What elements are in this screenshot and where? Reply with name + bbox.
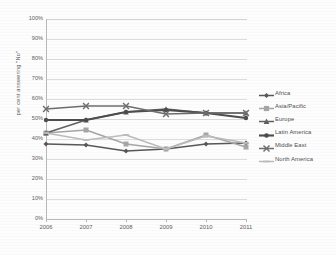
legend-item-latin-america[interactable]: Latin America: [258, 126, 334, 139]
gridline: [47, 59, 247, 60]
y-tick-label: 20%: [0, 176, 43, 182]
legend-marker-square-icon: [258, 100, 275, 111]
legend-label: North America: [275, 156, 313, 162]
legend-marker-circle-icon: [258, 127, 275, 138]
data-point-square: [264, 106, 269, 111]
y-tick-label: 40%: [0, 136, 43, 142]
y-tick-label: 60%: [0, 96, 43, 102]
y-tick-label: 100%: [0, 16, 43, 22]
y-tick-label: 80%: [0, 56, 43, 62]
x-tick-mark: [46, 219, 47, 222]
y-tick-label: 10%: [0, 196, 43, 202]
legend: AfricaAsia/PacificEuropeLatin AmericaMid…: [258, 86, 334, 165]
line-chart: per cent answering "No" 0%10%20%30%40%50…: [0, 0, 336, 255]
gridline: [47, 139, 247, 140]
plot-area: [46, 19, 247, 220]
legend-marker-dash-icon: [258, 153, 275, 164]
y-tick-label: 30%: [0, 156, 43, 162]
legend-label: Africa: [275, 90, 290, 96]
x-tick-mark: [166, 219, 167, 222]
x-tick-label: 2007: [66, 224, 106, 230]
legend-marker-triangle-icon: [258, 113, 275, 124]
legend-item-africa[interactable]: Africa: [258, 86, 334, 99]
data-point-circle: [264, 133, 269, 138]
gridline: [47, 159, 247, 160]
x-tick-mark: [86, 219, 87, 222]
legend-item-middle-east[interactable]: Middle East: [258, 139, 334, 152]
data-point-diamond: [264, 93, 269, 98]
gridline: [47, 99, 247, 100]
y-tick-label: 50%: [0, 116, 43, 122]
legend-item-asia-pacific[interactable]: Asia/Pacific: [258, 99, 334, 112]
legend-item-north-america[interactable]: North America: [258, 152, 334, 165]
legend-label: Asia/Pacific: [275, 103, 306, 109]
gridline: [47, 79, 247, 80]
x-tick-label: 2009: [146, 224, 186, 230]
legend-marker-cross-icon: [258, 140, 275, 151]
x-tick-label: 2006: [26, 224, 66, 230]
gridline: [47, 199, 247, 200]
x-tick-mark: [126, 219, 127, 222]
legend-label: Middle East: [275, 142, 306, 148]
gridline: [47, 119, 247, 120]
legend-label: Latin America: [275, 129, 311, 135]
legend-label: Europe: [275, 116, 294, 122]
x-tick-label: 2011: [226, 224, 266, 230]
gridline: [47, 39, 247, 40]
y-tick-label: 90%: [0, 36, 43, 42]
legend-marker-diamond-icon: [258, 87, 275, 98]
x-tick-label: 2010: [186, 224, 226, 230]
x-tick-mark: [206, 219, 207, 222]
y-tick-label: 70%: [0, 76, 43, 82]
legend-item-europe[interactable]: Europe: [258, 112, 334, 125]
x-tick-mark: [246, 219, 247, 222]
gridline: [47, 179, 247, 180]
gridline: [47, 19, 247, 20]
x-tick-label: 2008: [106, 224, 146, 230]
y-tick-label: 0%: [0, 216, 43, 222]
